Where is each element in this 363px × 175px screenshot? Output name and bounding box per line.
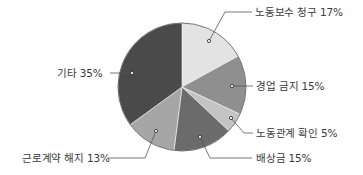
label-노동관계확인: 노동관계 확인 5% <box>256 127 337 139</box>
marker-icon <box>207 39 210 42</box>
pie-slices <box>118 23 246 151</box>
label-기타: 기타 35% <box>57 67 102 79</box>
marker-icon <box>130 71 133 74</box>
marker-icon <box>230 84 233 87</box>
marker-icon <box>154 129 157 132</box>
label-노동보수청구: 노동보수 청구 17% <box>255 6 343 18</box>
label-근로계약해지: 근로계약 해지 13% <box>22 152 110 164</box>
marker-icon <box>198 135 201 138</box>
label-경업금지: 경업 금지 15% <box>256 80 324 92</box>
marker-icon <box>229 116 232 119</box>
label-배상금: 배상금 15% <box>256 152 311 164</box>
